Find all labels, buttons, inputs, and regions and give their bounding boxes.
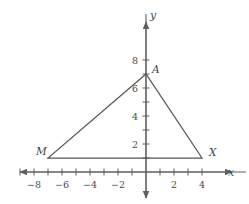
x-tick-label: −4 xyxy=(83,179,97,190)
y-tick-label: 6 xyxy=(132,83,138,94)
y-tick-label: 4 xyxy=(132,111,138,122)
x-tick-label: −8 xyxy=(27,179,41,190)
vertex-label-x: X xyxy=(208,146,217,158)
x-tick-label: 2 xyxy=(171,179,177,190)
y-axis-tick-labels: 2468 xyxy=(132,55,138,150)
vertex-label-a: A xyxy=(151,63,160,75)
x-tick-label: −2 xyxy=(111,179,125,190)
vertex-labels: AMX xyxy=(35,63,217,158)
triangle-max xyxy=(48,74,202,158)
y-tick-label: 8 xyxy=(132,55,138,66)
x-tick-label: 4 xyxy=(199,179,205,190)
y-axis-label: y xyxy=(149,9,157,22)
x-axis-label: x xyxy=(228,166,235,179)
x-axis-tick-labels: −8−6−4−224 xyxy=(27,179,205,190)
coordinate-plane-figure: −8−6−4−224 2468 AMX x y xyxy=(0,0,249,204)
x-tick-label: −6 xyxy=(55,179,69,190)
graph-canvas: −8−6−4−224 2468 AMX x y xyxy=(0,0,249,204)
y-tick-label: 2 xyxy=(132,139,138,150)
vertex-label-m: M xyxy=(35,145,47,157)
